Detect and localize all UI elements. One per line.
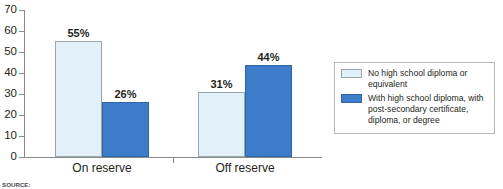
group-separator-tick [173,157,174,163]
y-tick-label: 60 [4,25,17,37]
legend-item-label: With high school diploma, with post-seco… [368,93,488,127]
bar-off-reserve-no-diploma: 31% [198,92,245,157]
y-tick-label: 50 [4,46,17,58]
bar-off-reserve-with-diploma: 44% [245,65,292,157]
bar-value-label: 26% [114,89,136,100]
y-axis-line [24,10,25,157]
bar-on-reserve-with-diploma: 26% [102,102,149,157]
source-note: SOURCE: [2,181,31,188]
plot-area: 70 60 50 40 30 20 10 0 [24,10,322,157]
y-tick-label: 70 [4,4,17,16]
y-tick-label: 0 [11,151,17,163]
bar-value-label: 44% [257,52,279,63]
chart-legend: No high school diploma or equivalent Wit… [334,62,495,134]
x-category-label-off-reserve: Off reserve [215,162,274,174]
y-tick-label: 20 [4,109,17,121]
x-category-label-on-reserve: On reserve [72,162,131,174]
bar-value-label: 55% [67,28,89,39]
legend-item-no-diploma: No high school diploma or equivalent [341,68,488,91]
dark-blue-swatch-icon [341,94,362,103]
y-tick-label: 30 [4,88,17,100]
source-note-prefix: SOURCE: [2,181,31,188]
legend-item-with-diploma: With high school diploma, with post-seco… [341,93,488,127]
y-tick-label: 40 [4,67,17,79]
grouped-bar-chart: 70 60 50 40 30 20 10 0 [0,0,503,189]
legend-item-label: No high school diploma or equivalent [368,68,488,91]
bar-value-label: 31% [210,79,232,90]
light-blue-swatch-icon [341,69,362,78]
y-tick-label: 10 [4,130,17,142]
bar-on-reserve-no-diploma: 55% [55,41,102,157]
